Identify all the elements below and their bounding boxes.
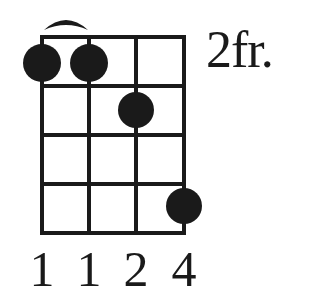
- finger-number: 1: [69, 244, 109, 294]
- finger-number: 1: [22, 244, 62, 294]
- chord-diagram: 2fr. 1 1 2 4: [0, 0, 310, 304]
- fret-position-label: 2fr.: [206, 24, 273, 76]
- fingering-row: 1 1 2 4: [0, 244, 310, 300]
- finger-dot-string-3: [118, 92, 154, 128]
- finger-dot-string-2: [70, 44, 108, 82]
- finger-dot-string-4: [166, 188, 202, 224]
- finger-dot-string-1: [23, 44, 61, 82]
- finger-number: 4: [164, 244, 204, 294]
- frets: [40, 37, 186, 233]
- finger-number: 2: [116, 244, 156, 294]
- barre-arc-icon: [44, 20, 88, 30]
